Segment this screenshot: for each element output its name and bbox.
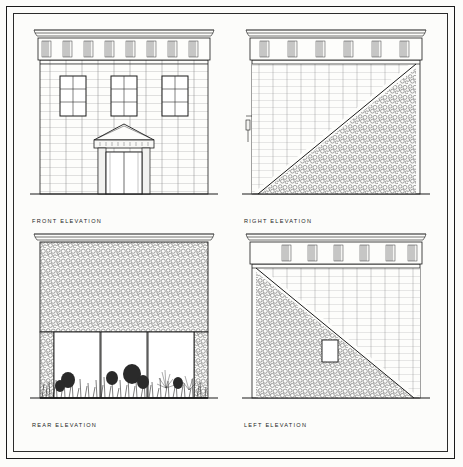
rear-glazing-group bbox=[54, 332, 194, 398]
right-cornice bbox=[246, 30, 426, 36]
front-elevation-drawing bbox=[26, 24, 222, 200]
elevation-panel-front: FRONT ELEVATION bbox=[26, 24, 222, 224]
elevation-panel-right: RIGHT ELEVATION bbox=[238, 24, 434, 224]
rear-glazed-bay-3 bbox=[148, 332, 194, 398]
entrance-pilaster-right bbox=[142, 148, 150, 194]
drawing-sheet: FRONT ELEVATION bbox=[0, 0, 463, 467]
entrance-pilaster-left bbox=[98, 148, 106, 194]
rear-elevation-drawing bbox=[26, 228, 222, 404]
caption-rear-elevation: REAR ELEVATION bbox=[32, 422, 97, 428]
elevation-panel-left: LEFT ELEVATION bbox=[238, 228, 434, 428]
caption-right-elevation: RIGHT ELEVATION bbox=[244, 218, 312, 224]
right-elevation-drawing bbox=[238, 24, 434, 200]
front-window-center bbox=[111, 76, 137, 116]
front-cornice bbox=[34, 30, 214, 36]
left-elevation-drawing bbox=[238, 228, 434, 404]
caption-left-elevation: LEFT ELEVATION bbox=[244, 422, 307, 428]
right-frieze-band bbox=[250, 38, 422, 60]
rear-wall-rubble bbox=[40, 242, 208, 332]
rear-cornice bbox=[34, 234, 214, 240]
left-small-window bbox=[322, 340, 338, 362]
front-window-right bbox=[162, 76, 188, 116]
caption-front-elevation: FRONT ELEVATION bbox=[32, 218, 102, 224]
left-cornice bbox=[246, 234, 426, 240]
elevation-panel-rear: REAR ELEVATION bbox=[26, 228, 222, 428]
front-window-left bbox=[60, 76, 86, 116]
right-downspout bbox=[246, 116, 252, 142]
